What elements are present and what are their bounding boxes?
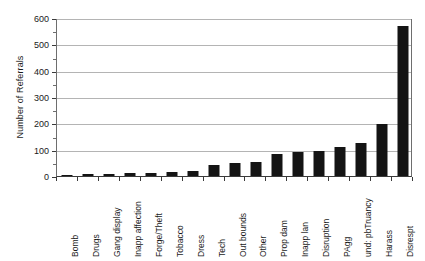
bar-slot	[392, 19, 413, 176]
x-axis-ticks	[56, 177, 412, 182]
y-tick-label: 100	[15, 147, 49, 156]
bar	[397, 26, 408, 176]
y-tick-label: 600	[15, 15, 49, 24]
x-tick-mark	[182, 177, 183, 181]
x-tick-mark	[161, 177, 162, 181]
referrals-bar-chart: Number of Referrals 0100200300400500600 …	[0, 0, 425, 261]
x-tick-mark	[244, 177, 245, 181]
x-tick-mark	[98, 177, 99, 181]
bar	[209, 165, 220, 176]
x-tick-mark	[224, 177, 225, 181]
bar-slot	[120, 19, 141, 176]
bar-slot	[162, 19, 183, 176]
x-tick-mark	[412, 177, 413, 181]
bar	[376, 124, 387, 176]
bar	[334, 147, 345, 176]
bar-slot	[183, 19, 204, 176]
x-tick-label: Inapp affection	[133, 201, 143, 257]
bar-slot	[99, 19, 120, 176]
bar	[355, 143, 366, 176]
x-tick-label: Out bounds	[238, 213, 248, 257]
y-tick-label: 300	[15, 94, 49, 103]
bar-slot	[371, 19, 392, 176]
x-tick-label: Harass	[384, 230, 394, 257]
x-tick-label: Dress	[196, 235, 206, 257]
bar	[229, 163, 240, 176]
bar	[83, 174, 94, 176]
bar-slot	[308, 19, 329, 176]
x-tick-label: Disrespt	[405, 226, 415, 257]
bar	[146, 173, 157, 176]
bar	[292, 152, 303, 176]
bar	[313, 151, 324, 176]
x-tick-label: Drugs	[91, 234, 101, 257]
x-tick-label: PAgg	[342, 237, 352, 257]
x-tick-label: Prop dam	[279, 220, 289, 257]
x-tick-label: Other	[258, 236, 268, 257]
x-tick-label: Disruption	[321, 219, 331, 257]
y-tick-label: 400	[15, 68, 49, 77]
bar	[250, 162, 261, 176]
bar-slot	[245, 19, 266, 176]
x-tick-label: und: pbTruancy	[363, 198, 373, 257]
bar	[104, 174, 115, 176]
y-tick-label: 500	[15, 41, 49, 50]
bar-slot	[57, 19, 78, 176]
x-tick-label: Inapp lan	[300, 222, 310, 257]
y-axis-ticks: 0100200300400500600	[0, 19, 56, 177]
x-tick-mark	[349, 177, 350, 181]
bar-slot	[141, 19, 162, 176]
x-tick-mark	[56, 177, 57, 181]
x-tick-label: Bomb	[70, 235, 80, 257]
bar	[188, 171, 199, 176]
x-tick-mark	[307, 177, 308, 181]
bar	[271, 154, 282, 176]
x-tick-label: Gang display	[112, 207, 122, 257]
x-tick-label: Forge/Theft	[154, 213, 164, 257]
plot-area	[56, 19, 412, 177]
bar-slot	[350, 19, 371, 176]
bar-slot	[78, 19, 99, 176]
bar-slot	[266, 19, 287, 176]
y-tick-label: 200	[15, 120, 49, 129]
x-tick-label: Tech	[217, 239, 227, 257]
x-tick-mark	[203, 177, 204, 181]
x-tick-mark	[265, 177, 266, 181]
x-tick-label: Tobacco	[175, 225, 185, 257]
x-tick-mark	[77, 177, 78, 181]
x-tick-mark	[328, 177, 329, 181]
bar-slot	[225, 19, 246, 176]
bar-slot	[329, 19, 350, 176]
y-tick-label: 0	[15, 173, 49, 182]
x-tick-mark	[370, 177, 371, 181]
x-tick-mark	[140, 177, 141, 181]
bar-slot	[287, 19, 308, 176]
bar	[62, 175, 73, 176]
bar-slot	[204, 19, 225, 176]
x-tick-mark	[391, 177, 392, 181]
x-tick-mark	[119, 177, 120, 181]
bar	[167, 172, 178, 176]
bar	[125, 173, 136, 176]
x-axis-labels: BombDrugsGang displayInapp affectionForg…	[56, 183, 412, 261]
x-tick-mark	[286, 177, 287, 181]
bars-layer	[57, 19, 411, 176]
